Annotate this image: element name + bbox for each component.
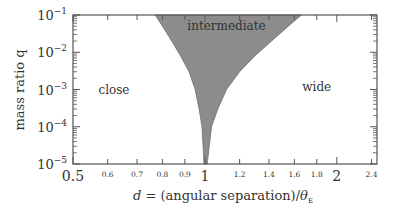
region-label-intermediate: intermediate <box>187 19 265 33</box>
x-minor-tick-label: 1.4 <box>263 170 275 179</box>
intermediate-region <box>155 15 301 164</box>
y-tick-labels: 10−110−210−310−410−5 <box>37 6 67 172</box>
x-major-tick-label: 1 <box>200 168 209 184</box>
x-major-tick-label: 2 <box>332 168 341 184</box>
x-axis-var: d <box>133 188 141 203</box>
x-minor-tick-label: 1.8 <box>311 170 323 179</box>
x-axis-eq: = (angular separation)/ <box>141 188 300 203</box>
x-major-tick-label: 0.5 <box>62 168 84 184</box>
x-minor-tick-label: 0.6 <box>102 170 114 179</box>
x-minor-tick-label: 1.6 <box>288 170 300 179</box>
y-tick-label: 10−3 <box>37 81 67 98</box>
caustic-topology-chart: 0.5120.60.70.80.91.21.41.61.82.4 10−110−… <box>0 0 398 213</box>
x-minor-tick-label: 0.7 <box>131 170 143 179</box>
intermediate-region-fill <box>155 15 301 164</box>
x-minor-tick-label: 2.4 <box>366 170 378 179</box>
x-axis-sub: E <box>308 197 313 205</box>
x-axis-title: d = (angular separation)/θE <box>133 188 313 205</box>
x-minor-tick-label: 0.9 <box>179 170 191 179</box>
region-label-wide: wide <box>302 80 331 94</box>
y-tick-label: 10−4 <box>37 118 67 135</box>
x-minor-tick-label: 0.8 <box>156 170 168 179</box>
x-axis-theta: θ <box>300 188 308 203</box>
y-tick-label: 10−1 <box>37 6 67 23</box>
region-label-close: close <box>98 83 129 97</box>
y-axis-title: mass ratio q <box>12 49 27 130</box>
x-minor-tick-label: 1.2 <box>234 170 246 179</box>
x-tick-labels: 0.5120.60.70.80.91.21.41.61.82.4 <box>62 168 378 184</box>
y-tick-label: 10−2 <box>37 43 67 60</box>
